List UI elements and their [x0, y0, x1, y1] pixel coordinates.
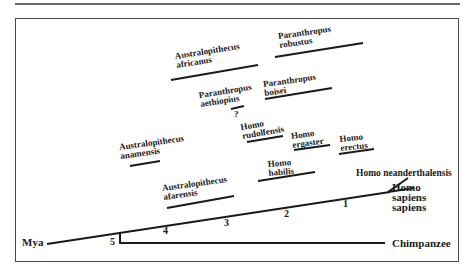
time-marker-3: 3 — [224, 217, 229, 228]
anamensis-bar — [130, 161, 160, 166]
time-marker-4: 4 — [163, 225, 168, 236]
homo-sapiens-sapiens-label: Homo sapiens sapiens — [392, 182, 426, 212]
uncertain-link-mark: ? — [234, 110, 239, 119]
time-marker-5: 5 — [110, 236, 115, 247]
neanderthal-label: Homo neanderthalensis — [356, 169, 452, 178]
mya-axis-label: Mya — [22, 237, 43, 247]
modern-subspecies: sapiens — [392, 202, 426, 212]
chimpanzee-label: Chimpanzee — [392, 238, 451, 248]
species-label-erectus: Homo erectus — [339, 132, 368, 153]
species-label-habilis: Homo habilis — [267, 158, 294, 178]
hominin-lineage-line — [47, 192, 390, 244]
time-marker-1: 1 — [343, 198, 348, 209]
chimpanzee-lineage-line — [120, 233, 385, 243]
time-marker-2: 2 — [284, 208, 289, 219]
